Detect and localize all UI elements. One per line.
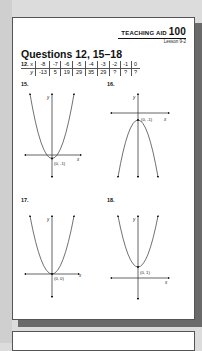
y-cell: 35 (85, 69, 97, 77)
svg-text:y: y (132, 95, 136, 100)
svg-text:x: x (163, 117, 167, 122)
y-cell: 19 (61, 69, 73, 77)
x-cell: -7 (50, 61, 61, 69)
svg-text:(0, 0): (0, 0) (54, 276, 64, 281)
graph-15: y x (0, -1) (21, 91, 83, 191)
y-cell: ? (109, 69, 120, 77)
x-cell: -1 (120, 61, 131, 69)
teaching-aid-number: 100 (169, 26, 186, 37)
svg-text:x: x (76, 157, 80, 162)
y-row-label: y (21, 69, 36, 77)
y-cell: ? (131, 69, 140, 77)
y-cell: 29 (97, 69, 109, 77)
y-cell: 5 (50, 69, 61, 77)
x-cell: 0 (131, 61, 140, 69)
graph-16: y x (0, -1) (109, 91, 171, 191)
teaching-aid-page: TEACHING AID 100 Lesson 9-2 Questions 12… (12, 17, 195, 320)
question-12-table: 12. x -8 -7 -6 -5 -4 -3 -2 -1 0 y -13 5 … (21, 61, 140, 76)
svg-text:x: x (78, 273, 82, 278)
x-cell: -6 (61, 61, 73, 69)
x-cell: -4 (85, 61, 97, 69)
y-cell: 29 (73, 69, 85, 77)
y-row: y -13 5 19 29 35 29 ? ? ? (21, 69, 140, 77)
svg-text:y: y (46, 95, 50, 100)
x-cell: -3 (97, 61, 109, 69)
y-cell: -13 (36, 69, 50, 77)
page-header: TEACHING AID 100 Lesson 9-2 (121, 26, 186, 37)
question-16-label: 16. (107, 81, 115, 87)
y-cell: ? (120, 69, 131, 77)
question-18-label: 18. (107, 197, 115, 203)
teaching-aid-title: TEACHING AID 100 (121, 26, 186, 37)
question-17-label: 17. (21, 197, 29, 203)
question-15-label: 15. (21, 81, 29, 87)
x-cell: -8 (36, 61, 50, 69)
svg-text:(0, 1): (0, 1) (140, 270, 150, 275)
lesson-label: Lesson 9-2 (164, 39, 186, 44)
svg-text:x: x (164, 280, 168, 285)
x-row-label: 12. x (21, 61, 36, 69)
svg-text:y: y (46, 217, 50, 222)
graph-17: y x (0, 0) (21, 214, 83, 314)
x-cell: -2 (109, 61, 120, 69)
background (0, 0, 12, 343)
svg-text:y: y (132, 217, 136, 222)
header-rule (118, 38, 186, 39)
svg-text:(0, -1): (0, -1) (141, 117, 153, 122)
teaching-aid-label: TEACHING AID (121, 30, 167, 36)
x-cell: -5 (73, 61, 85, 69)
svg-text:(0, -1): (0, -1) (54, 161, 66, 166)
x-row: 12. x -8 -7 -6 -5 -4 -3 -2 -1 0 (21, 61, 140, 69)
page-title: Questions 12, 15–18 (21, 48, 122, 60)
graph-18: y x (0, 1) (109, 214, 171, 314)
next-page-card (12, 331, 195, 351)
